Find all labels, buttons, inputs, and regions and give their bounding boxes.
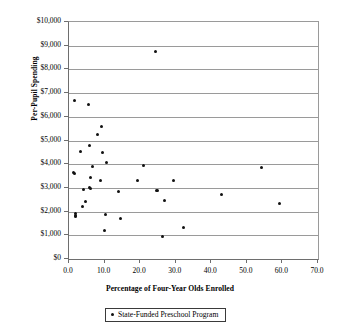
x-tick-label: 30.0 [155, 266, 195, 275]
x-tick-label: 40.0 [190, 266, 230, 275]
x-tick-mark [246, 259, 247, 263]
x-tick-mark [317, 259, 318, 263]
dot-marker-icon [111, 313, 114, 316]
x-tick-label: 60.0 [261, 266, 301, 275]
x-tick-mark [210, 259, 211, 263]
x-tick-label: 50.0 [226, 266, 266, 275]
x-tick-mark [175, 259, 176, 263]
x-tick-mark [104, 259, 105, 263]
x-tick-label: 10.0 [84, 266, 124, 275]
x-tick-mark [281, 259, 282, 263]
x-tick-mark [139, 259, 140, 263]
x-tick-mark [68, 259, 69, 263]
x-tick-label: 70.0 [297, 266, 337, 275]
scatter-chart-figure: Per-Pupil Spending $0$1,000$2,000$3,000$… [0, 0, 340, 335]
x-tick-label: 20.0 [119, 266, 159, 275]
chart-legend: State-Funded Preschool Program [105, 308, 226, 322]
x-tick-label: 0.0 [48, 266, 88, 275]
legend-entry-label: State-Funded Preschool Program [118, 311, 218, 319]
x-axis-title: Percentage of Four-Year Olds Enrolled [0, 284, 340, 293]
